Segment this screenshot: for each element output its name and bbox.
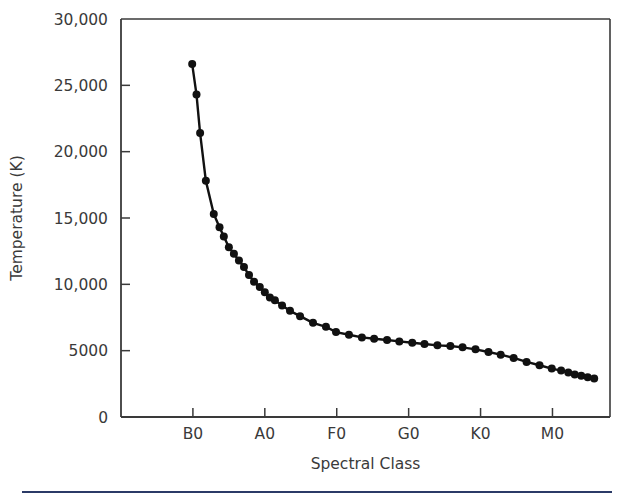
footer-divider (22, 491, 612, 493)
data-point-marker (210, 210, 218, 218)
data-point-marker (245, 271, 253, 279)
data-point-marker (309, 319, 317, 327)
y-tick-label: 15,000 (54, 210, 108, 228)
data-point-marker (345, 331, 353, 339)
data-point-marker (235, 256, 243, 264)
data-point-marker (322, 323, 330, 331)
data-point-marker (383, 336, 391, 344)
data-point-marker (220, 233, 228, 241)
data-point-marker (216, 223, 224, 231)
data-point-marker (240, 263, 248, 271)
data-point-marker (484, 348, 492, 356)
data-point-marker (188, 60, 196, 68)
x-tick-label: K0 (471, 425, 491, 443)
data-series-line (192, 64, 594, 378)
x-tick-label: F0 (327, 425, 346, 443)
x-tick-label: G0 (398, 425, 420, 443)
data-point-marker (358, 333, 366, 341)
data-point-marker (332, 328, 340, 336)
temperature-vs-spectral-class-chart: 0500010,00015,00020,00025,00030,000B0A0F… (0, 0, 628, 497)
hr-diagram-figure: 0500010,00015,00020,00025,00030,000B0A0F… (0, 0, 628, 497)
data-point-marker (523, 358, 531, 366)
data-point-marker (536, 361, 544, 369)
data-point-marker (420, 340, 428, 348)
data-point-marker (472, 345, 480, 353)
y-tick-label: 10,000 (54, 276, 108, 294)
data-point-marker (370, 335, 378, 343)
data-point-marker (510, 354, 518, 362)
y-tick-label: 20,000 (54, 143, 108, 161)
data-point-marker (271, 296, 279, 304)
data-point-marker (230, 250, 238, 258)
data-point-marker (433, 341, 441, 349)
data-point-marker (590, 375, 598, 383)
y-tick-label: 0 (98, 409, 108, 427)
data-point-marker (446, 342, 454, 350)
data-point-marker (557, 367, 565, 375)
x-tick-label: B0 (183, 425, 204, 443)
y-tick-label: 25,000 (54, 77, 108, 95)
data-point-marker (278, 302, 286, 310)
x-tick-label: A0 (255, 425, 275, 443)
y-axis-title: Temperature (K) (8, 155, 26, 281)
y-tick-label: 5000 (69, 342, 108, 360)
data-point-marker (548, 365, 556, 373)
data-point-marker (196, 129, 204, 137)
data-point-marker (408, 339, 416, 347)
data-point-marker (395, 337, 403, 345)
x-tick-label: M0 (541, 425, 564, 443)
data-point-marker (286, 307, 294, 315)
x-axis-title: Spectral Class (311, 455, 421, 473)
data-point-marker (193, 91, 201, 99)
data-point-marker (296, 312, 304, 320)
data-point-marker (225, 243, 233, 251)
data-point-marker (497, 351, 505, 359)
data-point-marker (202, 177, 210, 185)
y-tick-label: 30,000 (54, 11, 108, 29)
data-point-marker (459, 343, 467, 351)
